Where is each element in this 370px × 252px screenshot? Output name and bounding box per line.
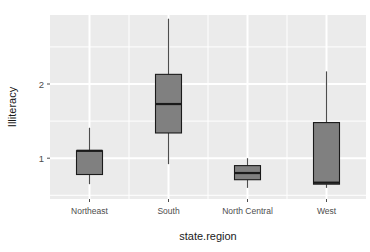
y-axis: 12	[39, 79, 50, 164]
x-axis: NortheastSouthNorth CentralWest	[71, 199, 337, 216]
y-tick-label: 1	[39, 153, 44, 164]
plot-canvas: 12 NortheastSouthNorth CentralWest Illit…	[0, 0, 370, 252]
x-tick-label-northeast: Northeast	[71, 206, 108, 216]
x-tick-label-west: West	[317, 206, 337, 216]
x-tick-label-north-central: North Central	[222, 206, 273, 216]
y-tick-label: 2	[39, 79, 44, 90]
y-axis-title: Illiteracy	[6, 86, 18, 127]
x-axis-title: state.region	[179, 230, 236, 242]
boxplot-chart: 12 NortheastSouthNorth CentralWest Illit…	[0, 0, 370, 252]
x-tick-label-south: South	[157, 206, 179, 216]
